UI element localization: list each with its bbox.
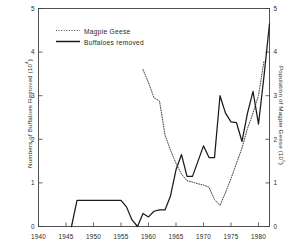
x-axis-tick-label: 1945 — [58, 233, 73, 240]
x-axis-tick-label: 1975 — [223, 233, 238, 240]
y-axis-right-title-main: Population of Magpie Geese (10 — [278, 66, 285, 160]
x-axis-tick-label: 1970 — [196, 233, 211, 240]
x-axis-tick-label: 1980 — [251, 233, 266, 240]
y-axis-left-title: Numbers of Buffaloes Removed (104) — [26, 39, 33, 189]
legend-label-buffaloes-removed: Buffaloes removed — [84, 39, 144, 46]
chart-canvas: 1940194519501955196019651970197519800123… — [0, 0, 301, 249]
y-axis-left-title-main: Numbers of Buffaloes Removed (10 — [26, 64, 33, 168]
legend-label-magpie-geese: Magpie Geese — [84, 28, 131, 35]
y-axis-left-tick-label: 5 — [31, 5, 35, 12]
x-axis-tick-label: 1960 — [141, 233, 156, 240]
y-axis-left-title-exponent: 4 — [24, 61, 29, 64]
y-axis-right-title-tail: ) — [278, 163, 285, 165]
x-axis-tick-label: 1955 — [113, 233, 128, 240]
x-axis-tick-label: 1950 — [86, 233, 101, 240]
figure-container: 1940194519501955196019651970197519800123… — [0, 0, 301, 249]
y-axis-right-tick-label: 5 — [274, 5, 278, 12]
y-axis-left-title-tail: ) — [26, 59, 33, 61]
x-axis-tick-label: 1965 — [168, 233, 183, 240]
x-axis-tick-label: 1940 — [31, 233, 46, 240]
y-axis-left-tick-label: 0 — [31, 223, 35, 230]
y-axis-right-title: Population of Magpie Geese (105) — [278, 41, 285, 191]
y-axis-right-tick-label: 0 — [274, 223, 278, 230]
